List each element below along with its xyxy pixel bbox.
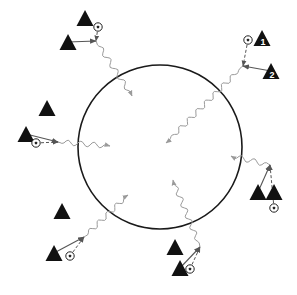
player xyxy=(46,245,63,261)
player xyxy=(266,184,283,200)
soccer-ball-icon xyxy=(270,204,278,212)
soccer-ball-icon xyxy=(66,252,74,260)
dribble-path xyxy=(173,180,200,247)
player: 2 xyxy=(263,63,280,80)
soccer-ball-icon xyxy=(32,139,40,147)
player-number-label: 2 xyxy=(269,70,274,80)
dribble-path xyxy=(231,156,270,166)
player xyxy=(39,100,56,116)
triangle-player-icon xyxy=(167,239,184,255)
dribble-path xyxy=(58,140,110,148)
run-arrow xyxy=(54,237,84,253)
run-arrow xyxy=(243,66,271,71)
player xyxy=(54,203,71,219)
dribble-path xyxy=(84,195,128,237)
player: 1 xyxy=(254,30,271,47)
soccer-ball-icon xyxy=(244,36,252,44)
players: 12 xyxy=(18,10,283,276)
player xyxy=(18,126,35,142)
triangle-player-icon xyxy=(46,245,63,261)
movement-paths xyxy=(26,27,274,269)
triangle-player-icon xyxy=(250,184,267,200)
player xyxy=(250,184,267,200)
drill-diagram: 12 xyxy=(0,0,297,295)
soccer-ball-icon xyxy=(186,265,194,273)
soccer-ball-icon xyxy=(94,23,102,31)
run-arrow xyxy=(68,41,96,42)
player xyxy=(77,10,94,26)
player-number-label: 1 xyxy=(260,37,265,47)
triangle-player-icon xyxy=(39,100,56,116)
triangle-player-icon xyxy=(77,10,94,26)
triangle-player-icon xyxy=(54,203,71,219)
dribble-path xyxy=(96,41,132,96)
triangle-player-icon xyxy=(18,126,35,142)
player xyxy=(167,239,184,255)
triangle-player-icon xyxy=(266,184,283,200)
